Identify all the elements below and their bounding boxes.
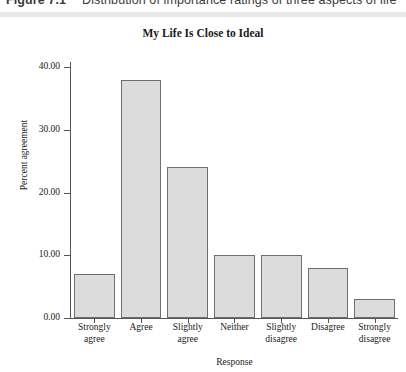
figure-caption: Figure 7.1Distribution of importance rat… (0, 0, 406, 12)
y-axis-tick (64, 255, 70, 256)
y-axis-tick-label: 40.00 (26, 61, 60, 71)
bar[interactable] (167, 167, 208, 318)
x-axis-category-label: Agree (118, 322, 165, 334)
bar[interactable] (354, 299, 395, 318)
y-axis-tick (64, 67, 70, 68)
bar[interactable] (214, 255, 255, 318)
y-axis-tick-label: 10.00 (26, 249, 60, 259)
bar[interactable] (261, 255, 302, 318)
y-axis-tick-label: 20.00 (26, 187, 60, 197)
y-axis-tick (64, 318, 70, 319)
bar[interactable] (74, 274, 115, 318)
x-axis-category-label: Slightlyagree (164, 322, 211, 345)
bar-series (71, 62, 398, 318)
x-axis-category-label: Stronglydisagree (351, 322, 398, 345)
caption-divider (0, 12, 406, 17)
y-axis-tick-label: 30.00 (26, 124, 60, 134)
bar-slot (258, 62, 305, 318)
x-axis-category-labels: StronglyagreeAgreeSlightlyagreeNeitherSl… (71, 322, 398, 356)
bar-slot (211, 62, 258, 318)
x-axis-category-label: Disagree (305, 322, 352, 334)
x-axis-category-label: Neither (211, 322, 258, 334)
y-axis-tick (64, 193, 70, 194)
chart-title: My Life Is Close to Ideal (0, 27, 406, 39)
bar-slot (305, 62, 352, 318)
y-axis-tick-label: 0.00 (26, 312, 60, 322)
bar-slot (71, 62, 118, 318)
bar[interactable] (308, 268, 349, 318)
x-axis-title: Response (71, 357, 398, 367)
figure-caption-text: Distribution of importance ratings of th… (82, 0, 396, 7)
bar-slot (351, 62, 398, 318)
bar-slot (118, 62, 165, 318)
x-axis-category-label: Stronglyagree (71, 322, 118, 345)
bar-slot (164, 62, 211, 318)
y-axis-tick (64, 130, 70, 131)
x-axis-category-label: Slightlydisagree (258, 322, 305, 345)
figure-caption-number: Figure 7.1 (6, 0, 66, 7)
y-axis-title: Percent agreement (19, 95, 29, 215)
bar[interactable] (121, 80, 162, 318)
